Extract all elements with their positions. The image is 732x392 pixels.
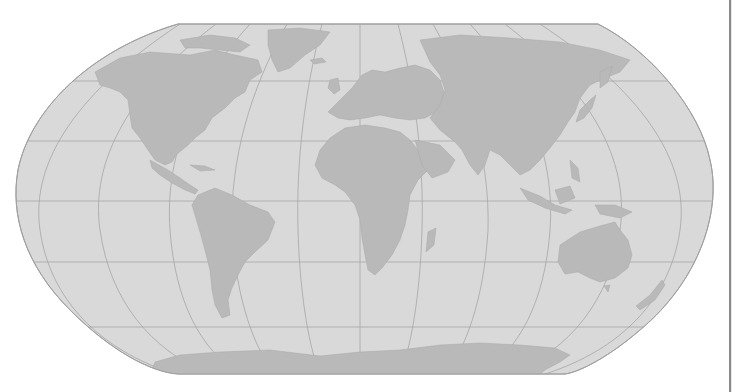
world-map [0, 0, 732, 392]
